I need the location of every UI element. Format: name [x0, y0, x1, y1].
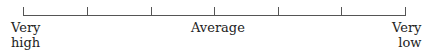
scale-tick-2: [87, 7, 88, 16]
label-very-low: Very low: [392, 20, 421, 50]
label-average: Average: [191, 20, 245, 35]
scale-tick-1: [23, 7, 24, 16]
label-low: low: [392, 35, 421, 50]
scale-tick-4: [214, 7, 215, 16]
label-very: Very: [392, 20, 421, 35]
scale-tick-5: [278, 7, 279, 16]
scale-tick-6: [341, 7, 342, 16]
label-very: Very: [11, 20, 40, 35]
scale-tick-3: [151, 7, 152, 16]
label-high: high: [11, 35, 40, 50]
label-very-high: Very high: [11, 20, 40, 50]
scale-tick-7: [405, 7, 406, 16]
